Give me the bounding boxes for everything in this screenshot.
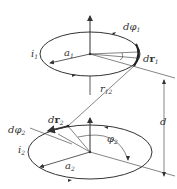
upper-loop [40, 16, 175, 78]
d-label: d [160, 116, 166, 127]
i1-label: i1 [31, 48, 38, 60]
dr1-label: dr1 [143, 53, 159, 65]
i2-label: i2 [18, 144, 25, 156]
lower-loop [28, 118, 175, 182]
phi2-label: φ2 [107, 133, 118, 145]
distance-d [162, 79, 166, 177]
a2-label: a2 [65, 160, 75, 172]
a1-label: a1 [64, 47, 74, 59]
coaxial-loops-diagram: dφ1 i1 a1 dr1 r12 dr2 dφ2 i2 φ2 a2 d [0, 0, 177, 189]
dr2-label: dr2 [48, 114, 64, 126]
dphi1-label: dφ1 [123, 21, 140, 33]
r12-label: r12 [100, 83, 113, 95]
dphi2-label: dφ2 [8, 124, 25, 136]
